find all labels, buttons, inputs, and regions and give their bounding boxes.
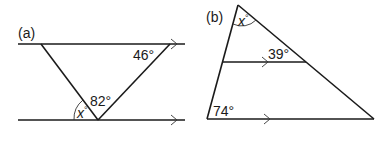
angle-label-46: 46° xyxy=(133,47,154,63)
degree-mark: ° xyxy=(245,13,249,23)
degree-mark: ° xyxy=(84,105,88,115)
diagram-b-label: (b) xyxy=(206,9,223,25)
geometry-figure: (a) 46° 82° x° (b) x° xyxy=(0,0,392,145)
angle-label-x: x° xyxy=(76,105,88,121)
angle-label-x: x° xyxy=(237,13,249,29)
angle-label-82: 82° xyxy=(90,93,111,109)
diagram-a-label: (a) xyxy=(18,25,35,41)
angle-label-39: 39° xyxy=(268,46,289,62)
angle-label-74: 74° xyxy=(213,103,234,119)
diagram-a: (a) 46° 82° x° xyxy=(18,25,185,125)
diagram-b: (b) x° 39° 74° xyxy=(206,5,374,124)
